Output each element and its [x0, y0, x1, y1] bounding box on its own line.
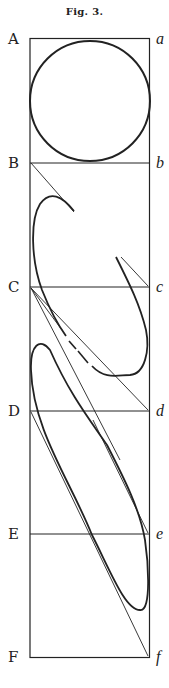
curve-dash-1 [69, 341, 76, 349]
tangent-line-2 [121, 257, 148, 286]
ellipse-long [31, 344, 148, 610]
curve-dash-2 [78, 351, 88, 363]
circle [30, 41, 150, 161]
figure-diagram [0, 0, 169, 688]
curve-right-loop [92, 257, 147, 376]
diagonal-C-long [31, 288, 120, 460]
curve-upper-left [33, 196, 74, 336]
